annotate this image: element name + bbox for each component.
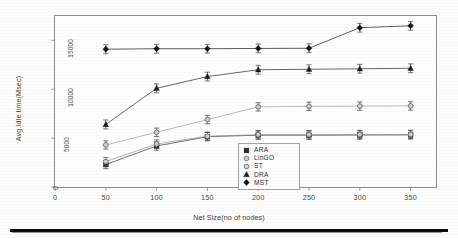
y-tick-label: 15000 xyxy=(67,39,74,58)
x-tick-label: 100 xyxy=(142,193,172,202)
data-point-marker xyxy=(307,132,312,137)
data-point-marker xyxy=(205,117,210,122)
y-tick-label: 5000 xyxy=(63,137,70,152)
scan-artifact-bar-secondary xyxy=(12,232,442,233)
x-tick-label: 50 xyxy=(91,193,121,202)
legend-item-dra[interactable]: DRA xyxy=(243,171,296,179)
data-point-marker xyxy=(154,142,159,147)
data-point-marker xyxy=(154,130,159,135)
x-tick-label: 350 xyxy=(396,193,426,202)
chart-figure: 050001000015000 050100150200250300350 Av… xyxy=(0,0,458,238)
y-tick-label: 0 xyxy=(52,186,59,190)
data-point-marker xyxy=(306,45,312,51)
data-point-marker xyxy=(103,159,108,164)
y-tick-label: 10000 xyxy=(67,88,74,107)
data-point-marker xyxy=(154,46,160,52)
data-point-marker xyxy=(357,25,363,31)
data-point-marker xyxy=(357,104,362,109)
data-point-marker xyxy=(255,45,261,51)
legend-marker-icon xyxy=(243,163,250,170)
x-tick-label: 200 xyxy=(243,193,273,202)
legend-item-lingo[interactable]: LinGO xyxy=(243,154,296,162)
data-point-marker xyxy=(103,121,109,126)
legend-marker-icon xyxy=(243,179,250,186)
x-axis-label: Net Size(no of nodes) xyxy=(0,213,458,222)
data-point-marker xyxy=(205,46,211,52)
legend-marker-icon xyxy=(243,147,250,154)
x-tick-label: 250 xyxy=(294,193,324,202)
data-point-marker xyxy=(357,132,362,137)
plot-svg xyxy=(0,0,458,238)
legend-item-mst[interactable]: MST xyxy=(243,179,296,187)
legend-marker-icon xyxy=(243,155,250,162)
legend-item-label: ST xyxy=(254,162,263,170)
data-point-marker xyxy=(244,148,249,153)
data-point-marker xyxy=(244,164,249,169)
legend-item-label: LinGO xyxy=(254,154,274,162)
plot-canvas xyxy=(0,0,458,238)
legend-item-st[interactable]: ST xyxy=(243,162,296,170)
series-line xyxy=(106,68,411,124)
data-point-marker xyxy=(408,103,413,108)
data-point-marker xyxy=(244,180,250,186)
data-point-marker xyxy=(408,23,414,29)
legend-item-ara[interactable]: ARA xyxy=(243,146,296,154)
data-point-marker xyxy=(408,132,413,137)
x-tick-label: 300 xyxy=(345,193,375,202)
data-point-marker xyxy=(103,46,109,52)
data-point-marker xyxy=(103,143,108,148)
legend-item-label: ARA xyxy=(254,146,268,154)
series-dra xyxy=(103,64,413,129)
x-tick-label: 0 xyxy=(40,193,70,202)
legend-item-label: MST xyxy=(254,179,269,187)
data-point-marker xyxy=(205,134,210,139)
data-point-marker xyxy=(244,156,249,161)
data-point-marker xyxy=(256,104,261,109)
series-lingo xyxy=(103,102,413,149)
legend-marker-icon xyxy=(243,171,250,178)
x-tick-label: 150 xyxy=(192,193,222,202)
data-point-marker xyxy=(408,65,414,70)
data-point-marker xyxy=(256,132,261,137)
data-point-marker xyxy=(307,104,312,109)
data-point-marker xyxy=(244,172,250,177)
y-axis-label: Avg.Idle time(Msec) xyxy=(14,69,23,149)
series-mst xyxy=(103,21,414,53)
chart-legend: ARALinGOSTDRAMST xyxy=(238,143,300,190)
legend-item-label: DRA xyxy=(254,171,269,179)
